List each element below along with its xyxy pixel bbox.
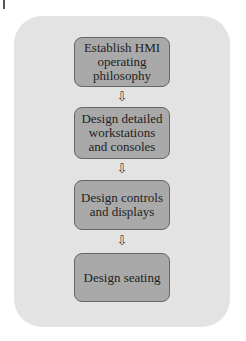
down-arrow-icon: ⇩ [112, 90, 132, 104]
step-design-seating: Design seating [74, 253, 170, 302]
down-arrow-icon: ⇩ [112, 162, 132, 176]
step-label: Design detailed workstations and console… [79, 112, 165, 154]
step-design-workstations-consoles: Design detailed workstations and console… [74, 107, 170, 159]
down-arrow-icon: ⇩ [112, 234, 132, 248]
step-design-controls-displays: Design controls and displays [74, 180, 170, 230]
page-margin-mark [3, 0, 5, 9]
step-establish-hmi-philosophy: Establish HMI operating philosophy [74, 37, 170, 87]
step-label: Design seating [84, 271, 161, 285]
step-label: Design controls and displays [79, 191, 165, 219]
step-label: Establish HMI operating philosophy [79, 41, 165, 83]
